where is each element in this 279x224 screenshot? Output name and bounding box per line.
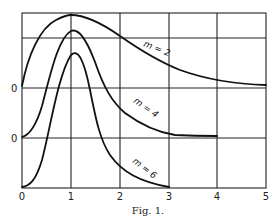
x-tick-4: 4: [214, 191, 220, 202]
figure-caption: Fig. 1.: [132, 205, 164, 216]
x-tick-0: 0: [19, 191, 25, 202]
baseline-label-m4: 0: [11, 133, 17, 144]
x-tick-1: 1: [68, 191, 74, 202]
figure: m = 2 m = 4 m = 6 0 0 0 1 2 3 4 5 Fig. 1…: [0, 0, 279, 224]
label-m4: m = 4: [132, 95, 161, 119]
x-tick-2: 2: [117, 191, 123, 202]
label-m2: m = 2: [142, 39, 172, 59]
x-tick-5: 5: [263, 191, 269, 202]
baseline-label-m2: 0: [11, 83, 17, 94]
x-tick-3: 3: [166, 191, 172, 202]
